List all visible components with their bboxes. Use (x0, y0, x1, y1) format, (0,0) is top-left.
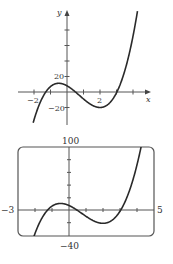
bottom-graph: 100 −40 −3 5 (1, 136, 163, 251)
xmax-label: 5 (157, 205, 163, 215)
y-axis-label: y (56, 8, 62, 17)
bottom-curve (33, 145, 141, 238)
figure: y x −2 2 20 −20 100 (0, 0, 173, 264)
x-axis-label: x (146, 95, 151, 104)
ymax-label: 100 (62, 136, 79, 146)
top-graph: y x −2 2 20 −20 (18, 8, 151, 125)
xmin-label: −3 (1, 205, 15, 215)
x-tick-label-neg2: −2 (27, 96, 39, 105)
y-axis-arrow-icon (65, 10, 70, 16)
x-tick-label-2: 2 (97, 96, 102, 105)
calculator-window-frame (18, 147, 154, 236)
ymin-label: −40 (60, 241, 79, 251)
y-tick-label-neg20: −20 (48, 104, 65, 113)
x-axis-arrow-icon (145, 90, 151, 95)
y-tick-label-20: 20 (54, 72, 64, 81)
